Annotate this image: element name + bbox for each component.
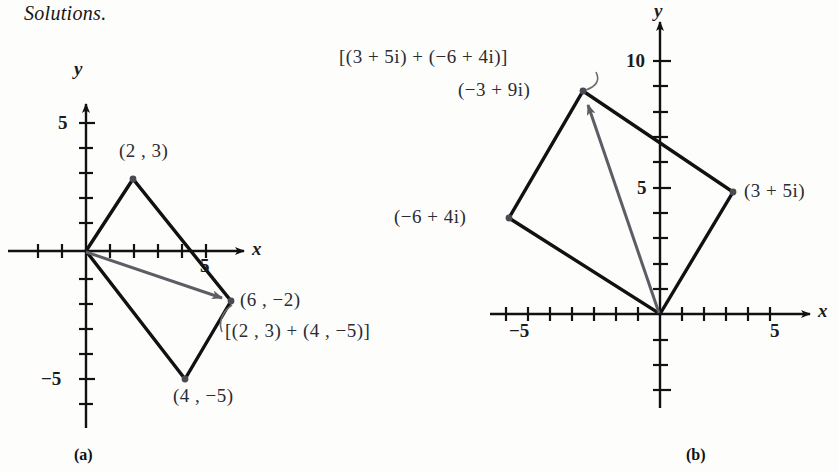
panel-b-y-axis-label: y [654, 0, 662, 22]
panel-b-point-minus6-plus-4i [506, 215, 513, 222]
panel-b-label-point-minus6-plus-4i: (−6 + 4i) [394, 206, 466, 228]
panel-b-annotation-sum: [(3 + 5i) + (−6 + 4i)] [339, 46, 508, 68]
panel-b-point-minus3-plus-9i [580, 88, 587, 95]
panel-b-y-axis [653, 22, 671, 408]
panel-b-annotation-leader [586, 72, 598, 90]
panel-b-x-axis-label: x [818, 300, 828, 322]
panel-b-y-tick-10: 10 [626, 50, 645, 72]
panel-b-x-tick-minus-5: −5 [509, 320, 529, 342]
panel-b-plot [0, 0, 839, 472]
panel-b-label-point-minus3-plus-9i: (−3 + 9i) [458, 79, 530, 101]
panel-b-label-point-3-plus-5i: (3 + 5i) [744, 180, 805, 202]
panel-b-caption: (b) [686, 446, 706, 464]
figure-page: Solutions. [0, 0, 839, 472]
panel-b-x-tick-5: 5 [770, 320, 780, 342]
panel-b-y-tick-5: 5 [637, 177, 647, 199]
panel-b-point-3-plus-5i [730, 189, 737, 196]
